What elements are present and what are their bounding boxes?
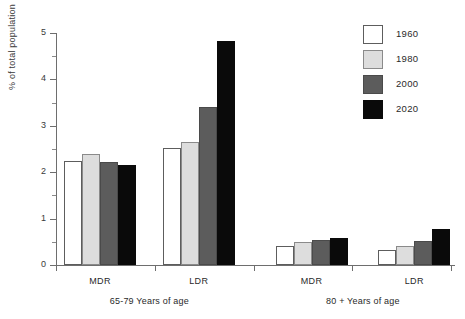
legend-label: 2000 xyxy=(396,78,418,89)
x-tick xyxy=(254,265,255,271)
x-tick xyxy=(155,265,156,271)
x-axis-category-label: LDR xyxy=(189,276,208,286)
y-tick-label: 5 xyxy=(28,27,46,37)
dark-gray-swatch xyxy=(363,75,383,94)
legend-label: 2020 xyxy=(396,103,418,114)
y-tick-label: 0 xyxy=(28,259,46,269)
bar xyxy=(276,246,294,265)
y-axis-title: % of total population xyxy=(7,0,23,112)
y-tick-label: 3 xyxy=(28,120,46,130)
bar xyxy=(414,241,432,265)
legend-item: 2020 xyxy=(363,99,461,123)
light-gray-swatch xyxy=(363,50,383,69)
x-tick xyxy=(352,265,353,271)
x-axis-category-label: LDR xyxy=(405,276,424,286)
y-tick-label: 4 xyxy=(28,73,46,83)
bar xyxy=(118,165,136,265)
bar xyxy=(181,142,199,265)
legend-item: 1960 xyxy=(363,24,461,48)
x-axis-category-label: MDR xyxy=(301,276,323,286)
bar xyxy=(199,107,217,265)
chart-legend: 1960198020002020 xyxy=(363,24,461,124)
legend-item: 1980 xyxy=(363,49,461,73)
legend-item: 2000 xyxy=(363,74,461,98)
legend-label: 1960 xyxy=(396,28,418,39)
x-axis-line xyxy=(56,265,455,266)
bar xyxy=(330,238,348,265)
bar xyxy=(432,229,450,265)
y-tick-label: 1 xyxy=(28,213,46,223)
bar xyxy=(82,154,100,265)
bar xyxy=(163,148,181,265)
bar xyxy=(312,240,330,265)
bar xyxy=(217,41,235,265)
bar xyxy=(378,250,396,265)
x-axis-group-label: 65-79 Years of age xyxy=(110,296,189,306)
x-axis-group-label: 80 + Years of age xyxy=(326,296,400,306)
bar xyxy=(64,161,82,265)
x-axis-category-label: MDR xyxy=(89,276,111,286)
white-swatch xyxy=(363,25,383,44)
x-tick xyxy=(56,265,57,271)
bar xyxy=(294,242,312,265)
black-swatch xyxy=(363,100,383,119)
grouped-bar-chart: % of total population 012345 MDRLDRMDRLD… xyxy=(0,0,465,319)
bar xyxy=(396,246,414,265)
x-tick xyxy=(451,265,452,271)
bar xyxy=(100,162,118,265)
y-tick-label: 2 xyxy=(28,166,46,176)
legend-label: 1980 xyxy=(396,53,418,64)
